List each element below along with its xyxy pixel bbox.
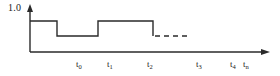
- tick-subscript: n: [246, 63, 249, 70]
- tick-subscript: 2: [150, 63, 153, 70]
- x-tick-label-t0: t0: [76, 60, 82, 69]
- tick-subscript: 0: [79, 63, 82, 70]
- x-tick-label-tn: tn: [243, 60, 249, 69]
- step-signal-polyline: [30, 21, 153, 36]
- x-tick-label-t4: t4: [230, 60, 236, 69]
- x-tick-label-t2: t2: [147, 60, 153, 69]
- tick-subscript: 1: [110, 63, 113, 70]
- tick-subscript: 3: [199, 63, 202, 70]
- step-signal-path: [30, 21, 153, 36]
- x-tick-label-t1: t1: [107, 60, 113, 69]
- y-axis-arrowhead: [27, 4, 33, 12]
- step-function-chart: 1.0 t0 t1 t2 t3 t4 tn: [0, 0, 280, 76]
- x-tick-label-t3: t3: [196, 60, 202, 69]
- tick-subscript: 4: [233, 63, 236, 70]
- x-axis-arrowhead: [261, 49, 270, 55]
- axes-group: [27, 4, 270, 55]
- plot-area: [0, 0, 280, 76]
